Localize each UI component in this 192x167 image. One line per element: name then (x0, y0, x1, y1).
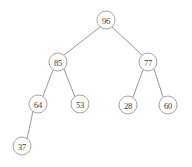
tree-edge-n96-n77 (112, 27, 142, 55)
tree-edge-n85-n64 (43, 70, 53, 96)
tree-node-label-85: 85 (54, 58, 62, 68)
tree-node-53[interactable]: 53 (71, 95, 89, 113)
tree-node-77[interactable]: 77 (139, 53, 157, 71)
tree-nodes-group: 9685776453286037 (13, 11, 177, 155)
tree-node-label-28: 28 (124, 101, 132, 111)
tree-node-85[interactable]: 85 (49, 53, 67, 71)
binary-tree-diagram: 9685776453286037 (0, 0, 192, 167)
tree-edge-n77-n60 (154, 69, 163, 97)
tree-node-96[interactable]: 96 (97, 11, 115, 29)
tree-edge-n77-n28 (133, 70, 143, 97)
tree-node-label-60: 60 (164, 101, 172, 111)
tree-node-28[interactable]: 28 (119, 96, 137, 114)
tree-node-label-53: 53 (76, 100, 84, 110)
tree-edges-group (27, 27, 163, 139)
tree-node-label-64: 64 (34, 100, 43, 110)
tree-edge-n96-n85 (64, 27, 100, 55)
tree-edge-n85-n53 (64, 69, 75, 97)
tree-node-37[interactable]: 37 (13, 137, 31, 155)
tree-node-label-77: 77 (144, 58, 152, 68)
tree-node-label-37: 37 (18, 142, 26, 152)
tree-node-60[interactable]: 60 (159, 96, 177, 114)
tree-node-64[interactable]: 64 (29, 95, 47, 113)
tree-node-label-96: 96 (102, 16, 110, 26)
tree-edge-n64-n37 (27, 111, 33, 139)
tree-canvas: 9685776453286037 (0, 0, 192, 167)
